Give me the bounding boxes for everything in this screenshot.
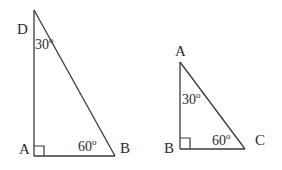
vertex-label-a-right: A (175, 44, 186, 59)
angle-label-30-left: 30o (35, 36, 54, 52)
segment-DB (34, 10, 115, 156)
angle-label-60-left: 60o (78, 138, 97, 154)
angle-value-60-left: 60 (78, 139, 92, 154)
degree-icon-60-left: o (92, 137, 97, 147)
right-angle-mark-A (34, 146, 44, 156)
vertex-label-b-left: B (120, 141, 130, 156)
right-angle-mark-B (180, 138, 190, 149)
triangles-drawing (0, 0, 282, 170)
angle-label-60-right: 60o (212, 132, 231, 148)
vertex-label-d: D (17, 22, 28, 37)
triangle-DAB-shape (34, 10, 115, 156)
angle-value-60-right: 60 (212, 133, 226, 148)
degree-icon-30-right: o (196, 90, 201, 100)
angle-value-30-left: 30 (35, 37, 49, 52)
vertex-label-b-right: B (164, 141, 174, 156)
geometry-figure: D A B 30o 60o A B C 30o 60o (0, 0, 282, 170)
vertex-label-a-left: A (19, 142, 30, 157)
angle-value-30-right: 30 (182, 92, 196, 107)
angle-label-30-right: 30o (182, 91, 201, 107)
vertex-label-c-right: C (255, 133, 265, 148)
degree-icon-60-right: o (226, 131, 231, 141)
degree-icon-30-left: o (49, 35, 54, 45)
